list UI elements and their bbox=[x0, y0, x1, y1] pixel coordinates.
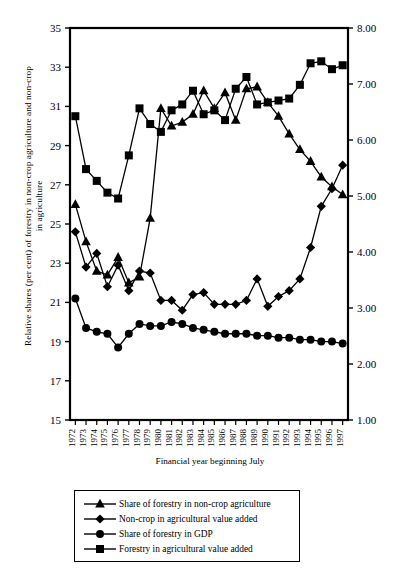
data-point-circle bbox=[96, 530, 104, 538]
data-point-triangle bbox=[71, 199, 81, 208]
data-point-square bbox=[339, 61, 347, 69]
legend-item-label: Non-crop in agricultural value added bbox=[117, 514, 258, 524]
data-point-circle bbox=[93, 328, 101, 336]
data-point-diamond bbox=[253, 274, 262, 283]
data-point-circle bbox=[264, 332, 272, 340]
data-point-diamond bbox=[220, 300, 229, 309]
legend-item: Forestry in agricultural value added bbox=[83, 541, 291, 556]
x-axis-tick-label: 1996 bbox=[324, 429, 334, 448]
x-axis-tick-label: 1983 bbox=[185, 429, 195, 448]
data-point-circle bbox=[146, 322, 154, 330]
x-axis-tick-label: 1972 bbox=[67, 429, 77, 447]
x-axis-tick-label: 1986 bbox=[217, 429, 227, 448]
data-point-square bbox=[114, 195, 122, 203]
y-axis-left-tick-label: 25 bbox=[50, 218, 62, 230]
y-axis-left-tick-label: 19 bbox=[50, 336, 62, 348]
data-point-square bbox=[157, 128, 165, 136]
data-point-triangle bbox=[113, 252, 123, 261]
data-point-triangle bbox=[338, 189, 348, 198]
y-axis-left-tick-label: 29 bbox=[50, 140, 62, 152]
x-axis-tick-label: 1995 bbox=[313, 429, 323, 448]
chart-legend: Share of forestry in non-crop agricultur… bbox=[74, 490, 300, 562]
legend-item: Share of forestry in non-crop agricultur… bbox=[83, 496, 291, 511]
data-point-triangle bbox=[81, 236, 91, 245]
y-axis-right-tick-label: 8.00 bbox=[357, 22, 377, 34]
data-point-circle bbox=[307, 336, 315, 344]
data-point-square bbox=[221, 116, 229, 124]
chart-figure: Relative shares (per cent) of forestry i… bbox=[0, 0, 413, 575]
y-axis-right-tick-label: 5.00 bbox=[357, 190, 377, 202]
data-point-square bbox=[264, 98, 272, 106]
legend-marker-diamond-icon bbox=[83, 512, 117, 526]
data-point-triangle bbox=[145, 213, 155, 222]
x-axis-tick-label: 1980 bbox=[153, 429, 163, 448]
data-point-square bbox=[307, 59, 315, 67]
data-point-square bbox=[178, 100, 186, 108]
legend-marker-triangle-icon bbox=[83, 497, 117, 511]
data-point-triangle bbox=[95, 498, 105, 507]
data-point-square bbox=[82, 165, 90, 173]
y-axis-right-tick-label: 2.00 bbox=[357, 358, 377, 370]
series-circle bbox=[71, 294, 346, 351]
x-axis-tick-label: 1975 bbox=[99, 429, 109, 448]
x-axis-tick-label: 1997 bbox=[335, 429, 345, 448]
plot-frame bbox=[70, 28, 348, 420]
data-point-circle bbox=[328, 338, 336, 346]
data-point-triangle bbox=[156, 103, 166, 112]
legend-item: Share of forestry in GDP bbox=[83, 526, 291, 541]
legend-item-label: Share of forestry in non-crop agricultur… bbox=[117, 499, 271, 509]
data-point-circle bbox=[221, 330, 229, 338]
data-point-circle bbox=[168, 318, 176, 326]
plot-area: 15171921232527293133351.002.003.004.005.… bbox=[0, 0, 413, 450]
data-point-square bbox=[93, 177, 101, 185]
x-axis-tick-label: 1979 bbox=[142, 429, 152, 448]
data-point-square bbox=[71, 112, 79, 120]
data-point-circle bbox=[157, 322, 165, 330]
y-axis-right-tick-label: 4.00 bbox=[357, 246, 377, 258]
data-point-diamond bbox=[317, 202, 326, 211]
series-line bbox=[75, 165, 342, 310]
y-axis-left-tick-label: 31 bbox=[50, 100, 61, 112]
data-point-triangle bbox=[220, 87, 230, 96]
series-line bbox=[75, 87, 342, 283]
data-point-circle bbox=[125, 330, 133, 338]
y-axis-left-tick-label: 27 bbox=[50, 179, 62, 191]
legend-marker-square-icon bbox=[83, 542, 117, 556]
x-axis-tick-label: 1974 bbox=[89, 429, 99, 448]
y-axis-left-tick-label: 21 bbox=[50, 296, 61, 308]
y-axis-left-tick-label: 17 bbox=[50, 375, 62, 387]
data-point-square bbox=[253, 100, 261, 108]
data-point-circle bbox=[296, 336, 304, 344]
data-point-triangle bbox=[252, 82, 262, 91]
data-point-diamond bbox=[338, 161, 347, 170]
y-axis-right-tick-label: 3.00 bbox=[357, 302, 377, 314]
x-axis-tick-label: 1984 bbox=[196, 429, 206, 448]
x-axis-tick-label: 1991 bbox=[271, 429, 281, 447]
x-axis-tick-label: 1976 bbox=[110, 429, 120, 448]
data-point-diamond bbox=[156, 296, 165, 305]
data-point-diamond bbox=[146, 268, 155, 277]
series-diamond bbox=[71, 161, 348, 315]
legend-marker-circle-icon bbox=[83, 527, 117, 541]
y-axis-right-tick-label: 6.00 bbox=[357, 134, 377, 146]
data-point-diamond bbox=[135, 266, 144, 275]
chart-canvas: 15171921232527293133351.002.003.004.005.… bbox=[0, 0, 413, 450]
data-point-square bbox=[136, 104, 144, 112]
data-point-circle bbox=[178, 320, 186, 328]
data-point-circle bbox=[317, 338, 325, 346]
legend-item-label: Share of forestry in GDP bbox=[117, 529, 213, 539]
data-point-triangle bbox=[177, 117, 187, 126]
x-axis-tick-label: 1985 bbox=[206, 429, 216, 448]
x-axis-tick-label: 1990 bbox=[260, 429, 270, 448]
x-axis-tick-label: 1978 bbox=[132, 429, 142, 448]
data-point-triangle bbox=[199, 86, 209, 95]
data-point-circle bbox=[285, 334, 293, 342]
y-axis-right-tick-label: 7.00 bbox=[357, 78, 377, 90]
x-axis-tick-label: 1982 bbox=[174, 429, 184, 447]
data-point-circle bbox=[232, 330, 240, 338]
data-point-circle bbox=[82, 324, 90, 332]
data-point-square bbox=[242, 73, 250, 81]
data-point-diamond bbox=[188, 290, 197, 299]
x-axis-tick-label: 1981 bbox=[164, 429, 174, 447]
data-point-circle bbox=[200, 326, 208, 334]
